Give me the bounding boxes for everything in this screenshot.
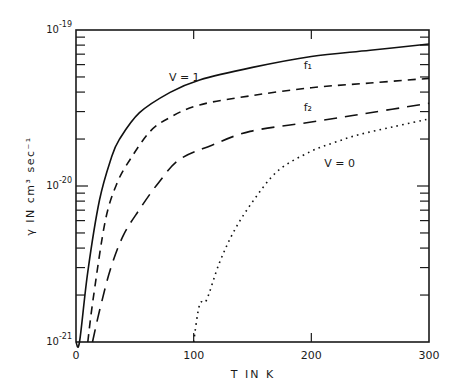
x-tick-label: 300 <box>419 349 440 362</box>
curve-f <box>88 78 429 342</box>
curve-label: V = 0 <box>324 157 355 170</box>
data-curves <box>76 44 429 347</box>
x-tick-label: 200 <box>301 349 322 362</box>
x-axis-label: T IN K <box>230 368 275 381</box>
x-tick-label: 100 <box>183 349 204 362</box>
curve-v-1 <box>76 44 429 347</box>
curve-labels: V = 1f₁f₂V = 0 <box>169 59 355 170</box>
curve-label: V = 1 <box>169 71 200 84</box>
axis-ticks <box>76 30 429 342</box>
tick-labels: 010020030010-2110-2010-19 <box>46 20 439 362</box>
chart: 010020030010-2110-2010-19 V = 1f₁f₂V = 0… <box>0 0 456 390</box>
x-tick-label: 0 <box>73 349 80 362</box>
plot-border <box>76 30 429 342</box>
curve-v-0 <box>194 119 429 342</box>
y-tick-label: 10-20 <box>46 176 72 191</box>
y-axis-label-text: γ IN cm³ sec⁻¹ <box>24 136 37 235</box>
y-tick-label: 10-21 <box>46 332 72 347</box>
curve-label: f₂ <box>304 101 312 114</box>
y-tick-label: 10-19 <box>46 20 72 35</box>
y-axis-label: γ IN cm³ sec⁻¹ <box>24 136 37 235</box>
plot-frame <box>76 30 429 342</box>
curve-label: f₁ <box>304 59 312 72</box>
